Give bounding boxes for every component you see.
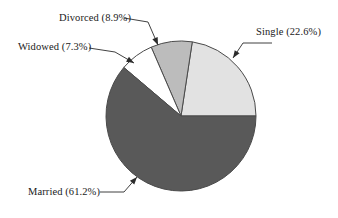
pie-slice-group bbox=[106, 41, 256, 191]
slice-label-married: Married (61.2%) bbox=[28, 186, 100, 198]
leader-line-single bbox=[233, 43, 272, 58]
pie-slice-single bbox=[181, 42, 256, 116]
leader-arrow-single bbox=[233, 50, 240, 58]
leader-arrow-divorced bbox=[152, 37, 158, 45]
leader-line-married bbox=[100, 177, 137, 192]
slice-label-single: Single (22.6%) bbox=[256, 26, 321, 38]
slice-label-divorced: Divorced (8.9%) bbox=[59, 12, 131, 24]
pie-chart-figure: Single (22.6%) Divorced (8.9%) Widowed (… bbox=[0, 0, 338, 218]
slice-label-widowed: Widowed (7.3%) bbox=[18, 41, 91, 53]
